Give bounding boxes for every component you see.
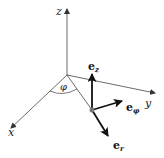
e-r-label: er bbox=[113, 139, 125, 153]
y-axis-label: y bbox=[144, 97, 152, 110]
y-axis bbox=[67, 75, 155, 93]
phi-angle-label: φ bbox=[60, 81, 67, 92]
x-axis bbox=[11, 75, 67, 128]
radial-line bbox=[67, 75, 92, 110]
z-axis-label: z bbox=[55, 5, 62, 18]
e-r-vector bbox=[92, 110, 108, 136]
x-axis-label: x bbox=[8, 126, 15, 139]
e-z-label: ez bbox=[88, 60, 100, 74]
point-marker bbox=[90, 108, 95, 113]
cylindrical-coordinates-diagram: z y x φ ez eφ er bbox=[0, 0, 164, 158]
e-phi-label: eφ bbox=[126, 101, 140, 115]
e-phi-vector bbox=[92, 101, 122, 110]
